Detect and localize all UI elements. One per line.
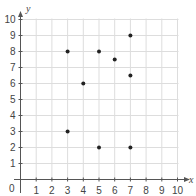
data-point bbox=[66, 50, 70, 54]
y-tick-label: 2 bbox=[10, 142, 16, 153]
y-tick-label: 4 bbox=[10, 110, 16, 121]
x-tick-label: 4 bbox=[81, 185, 87, 196]
x-tick-label: 8 bbox=[143, 185, 149, 196]
y-tick-label: 9 bbox=[10, 30, 16, 41]
y-tick-label: 10 bbox=[4, 14, 16, 25]
y-axis-label: y bbox=[25, 3, 31, 14]
x-tick-label: 3 bbox=[65, 185, 71, 196]
x-tick-label: 5 bbox=[96, 185, 102, 196]
y-tick-label: 7 bbox=[10, 62, 16, 73]
y-tick-label: 5 bbox=[10, 94, 16, 105]
grid-lines bbox=[21, 19, 179, 180]
scatter-chart: 1234567891012345678910 y x 0 bbox=[0, 0, 196, 196]
y-tick-label: 6 bbox=[10, 78, 16, 89]
data-point bbox=[128, 146, 132, 150]
x-tick-label: 1 bbox=[33, 185, 39, 196]
y-axis-arrow-icon bbox=[18, 11, 23, 17]
x-tick-label: 7 bbox=[128, 185, 134, 196]
data-point bbox=[113, 58, 117, 62]
x-tick-label: 2 bbox=[49, 185, 55, 196]
data-point bbox=[128, 34, 132, 38]
axis-ticks bbox=[19, 20, 178, 182]
data-point bbox=[97, 146, 101, 150]
data-point bbox=[128, 74, 132, 78]
y-tick-label: 1 bbox=[10, 158, 16, 169]
tick-labels: 1234567891012345678910 bbox=[4, 14, 183, 196]
origin-label: 0 bbox=[9, 183, 15, 194]
x-tick-label: 6 bbox=[112, 185, 118, 196]
data-point bbox=[66, 130, 70, 134]
x-tick-label: 9 bbox=[159, 185, 165, 196]
y-tick-label: 8 bbox=[10, 46, 16, 57]
x-tick-label: 10 bbox=[172, 185, 184, 196]
x-axis-label: x bbox=[188, 174, 194, 185]
y-tick-label: 3 bbox=[10, 126, 16, 137]
axes bbox=[14, 11, 190, 193]
data-point bbox=[97, 50, 101, 54]
data-point bbox=[81, 82, 85, 86]
